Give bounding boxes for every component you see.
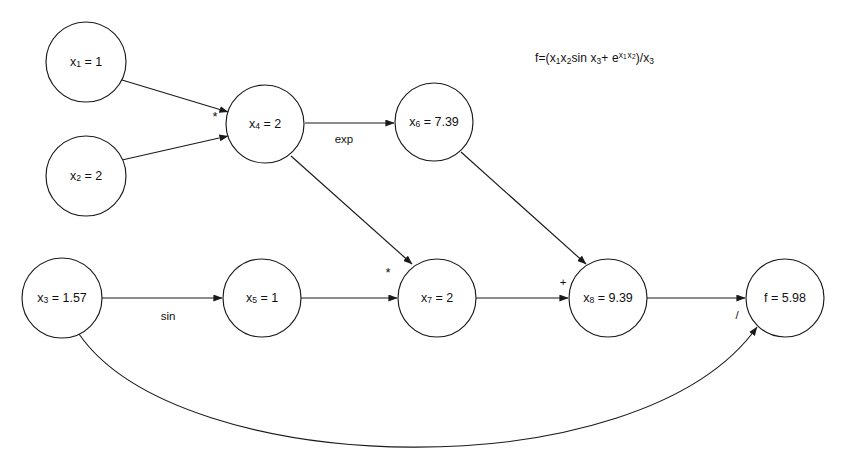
node-x1-label: x1 = 1 xyxy=(70,55,102,69)
node-x7[interactable]: x7 = 2 xyxy=(398,259,476,337)
operator-multiply-x4: * xyxy=(212,109,217,124)
formula-eq: =( xyxy=(538,51,549,65)
operator-divide-f: / xyxy=(735,309,739,321)
formula-sin: sin x xyxy=(571,51,596,65)
formula-expression: f=(x1x2sin x3+ ex1 x2)/x3 xyxy=(535,50,654,66)
edge-x2-to-x4 xyxy=(122,136,228,160)
node-x1[interactable]: x1 = 1 xyxy=(46,22,126,102)
node-x5-label: x5 = 1 xyxy=(246,291,278,305)
formula-exponent: x1 x2 xyxy=(619,50,636,60)
formula-exp-x1-sub: 1 xyxy=(623,53,627,60)
node-x3[interactable]: x3 = 1.57 xyxy=(22,258,102,338)
node-x4-label: x4 = 2 xyxy=(249,117,281,131)
edge-x3-to-f xyxy=(79,327,757,447)
edge-x4-to-x7 xyxy=(291,156,412,264)
formula-close: )/x xyxy=(636,51,650,65)
node-x7-label: x7 = 2 xyxy=(421,291,453,305)
diagram-canvas: * exp * + sin / x1 = 1 x2 = 2 xyxy=(0,0,867,474)
operator-exp-x6: exp xyxy=(335,133,354,145)
node-x2[interactable]: x2 = 2 xyxy=(46,136,126,216)
node-layer: x1 = 1 x2 = 2 x4 = 2 x6 = 7.39 xyxy=(22,22,824,338)
node-x8[interactable]: x8 = 9.39 xyxy=(569,259,647,337)
edge-x1-to-x4 xyxy=(122,80,228,112)
operator-multiply-x7: * xyxy=(385,265,390,280)
operator-add-x8: + xyxy=(560,276,567,288)
formula-denom-sub: 3 xyxy=(649,56,654,66)
operator-sin-x5: sin xyxy=(161,310,176,322)
formula-plus-e: + e xyxy=(601,51,618,65)
node-x2-label: x2 = 2 xyxy=(70,169,102,183)
node-x5[interactable]: x5 = 1 xyxy=(223,259,301,337)
node-x4[interactable]: x4 = 2 xyxy=(226,85,304,163)
node-f-label: f = 5.98 xyxy=(764,291,806,305)
node-x6[interactable]: x6 = 7.39 xyxy=(395,83,473,161)
computational-graph: * exp * + sin / x1 = 1 x2 = 2 xyxy=(0,0,867,474)
node-f[interactable]: f = 5.98 xyxy=(746,259,824,337)
edge-x6-to-x8 xyxy=(461,152,586,264)
